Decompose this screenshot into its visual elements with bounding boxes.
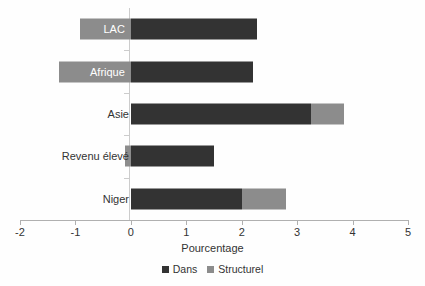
x-tick-label: -1	[71, 227, 81, 238]
bar-chart: LACAfriqueAsieRevenu élevéNiger -2-10123…	[0, 0, 425, 286]
category-label: Afrique	[90, 66, 125, 77]
category-minor-tick	[124, 93, 130, 94]
x-tick	[242, 220, 243, 225]
x-tick	[75, 220, 76, 225]
legend-item: Dans	[162, 264, 198, 275]
x-tick-label: 1	[183, 227, 189, 238]
x-tick-label: 4	[350, 227, 356, 238]
legend-swatch-icon	[162, 266, 169, 273]
chart-legend: DansStructurel	[0, 264, 425, 275]
legend-swatch-icon	[207, 266, 214, 273]
x-tick-label: 2	[239, 227, 245, 238]
x-tick-label: 5	[405, 227, 411, 238]
x-tick-label: 3	[294, 227, 300, 238]
bar-segment-structurel	[242, 188, 286, 209]
category-label: LAC	[103, 24, 124, 35]
legend-label: Structurel	[218, 264, 263, 275]
bar-segment-dans	[131, 61, 253, 82]
legend-label: Dans	[173, 264, 198, 275]
category-label: Niger	[103, 193, 129, 204]
x-tick-label: 0	[128, 227, 134, 238]
bar-row: Asie	[20, 93, 408, 135]
bar-segment-structurel	[311, 103, 344, 124]
x-tick	[131, 220, 132, 225]
x-tick	[353, 220, 354, 225]
x-tick-label: -2	[15, 227, 25, 238]
category-minor-tick	[124, 178, 130, 179]
bar-segment-dans	[131, 19, 257, 40]
x-axis-title: Pourcentage	[0, 243, 425, 254]
x-tick	[297, 220, 298, 225]
bar-row: Niger	[20, 178, 408, 220]
category-label: Asie	[108, 108, 129, 119]
bar-row: Revenu élevé	[20, 135, 408, 177]
category-minor-tick	[124, 135, 130, 136]
plot-area: LACAfriqueAsieRevenu élevéNiger	[20, 8, 408, 220]
bar-row: Afrique	[20, 50, 408, 92]
bar-segment-dans	[131, 103, 311, 124]
legend-item: Structurel	[207, 264, 263, 275]
bar-row: LAC	[20, 8, 408, 50]
category-label: Revenu élevé	[62, 151, 129, 162]
bar-segment-dans	[131, 146, 214, 167]
x-axis-line	[20, 220, 408, 221]
x-tick	[186, 220, 187, 225]
x-tick	[20, 220, 21, 225]
x-tick	[408, 220, 409, 225]
bar-segment-dans	[131, 188, 242, 209]
category-minor-tick	[124, 50, 130, 51]
